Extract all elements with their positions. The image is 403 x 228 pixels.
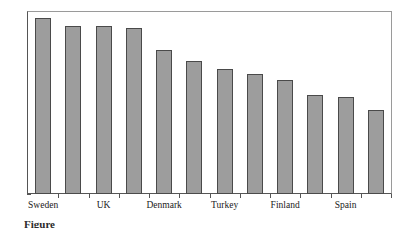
bar[interactable]: [186, 61, 202, 194]
figure-caption: Figure: [24, 218, 403, 228]
bar[interactable]: [156, 50, 172, 194]
x-axis-label: Turkey: [211, 198, 238, 212]
bar[interactable]: [368, 110, 384, 194]
x-axis-label: Denmark: [146, 198, 181, 212]
x-axis-labels: SwedenUKDenmarkTurkeyFinlandSpain: [0, 198, 403, 214]
bar[interactable]: [65, 26, 81, 194]
bar-series: [28, 11, 391, 194]
bar[interactable]: [307, 95, 323, 194]
bar[interactable]: [277, 80, 293, 194]
bar-slot: [307, 11, 323, 194]
bar-slot: [368, 11, 384, 194]
bar-slot: [217, 11, 233, 194]
x-axis-label: Spain: [335, 198, 357, 212]
bar-slot: [156, 11, 172, 194]
bar-slot: [126, 11, 142, 194]
caption-prefix: Figure: [24, 218, 55, 228]
bar-slot: [65, 11, 81, 194]
bar[interactable]: [126, 28, 142, 194]
bar[interactable]: [217, 69, 233, 194]
y-axis: 0102030405060708090100: [0, 0, 27, 228]
bar[interactable]: [247, 74, 263, 194]
bar-slot: [247, 11, 263, 194]
bar[interactable]: [35, 18, 51, 194]
x-axis-label: UK: [97, 198, 111, 212]
bar-slot: [277, 11, 293, 194]
x-axis-label: Sweden: [28, 198, 58, 212]
bar-slot: [35, 11, 51, 194]
bar-slot: [96, 11, 112, 194]
bar[interactable]: [96, 26, 112, 194]
bar-slot: [186, 11, 202, 194]
x-axis-label: Finland: [271, 198, 300, 212]
figure-container: 0102030405060708090100 SwedenUKDenmarkTu…: [0, 0, 403, 228]
bar[interactable]: [338, 97, 354, 194]
bar-slot: [338, 11, 354, 194]
